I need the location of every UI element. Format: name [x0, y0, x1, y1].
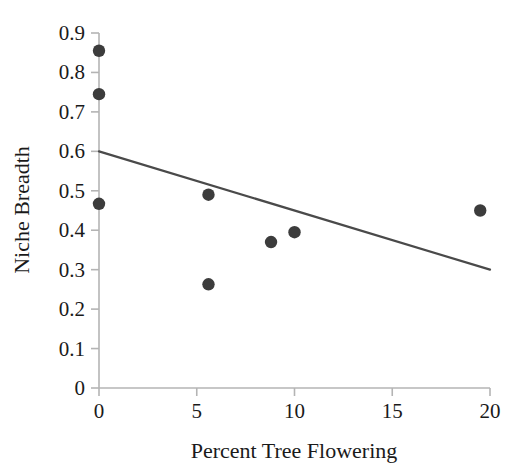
trendline-segment: [99, 151, 490, 269]
data-point: [93, 198, 105, 210]
y-tick-label: 0.7: [59, 100, 85, 124]
data-point: [474, 204, 486, 216]
y-axis-group: 00.10.20.30.40.50.60.70.80.9: [59, 21, 99, 400]
data-point: [93, 88, 105, 100]
plot-canvas: 00.10.20.30.40.50.60.70.80.9 05101520 Pe…: [0, 0, 522, 475]
y-axis-tick-labels: 00.10.20.30.40.50.60.70.80.9: [59, 21, 86, 400]
y-tick-label: 0.1: [59, 337, 85, 361]
x-axis-group: 05101520: [94, 388, 501, 423]
y-tick-label: 0.9: [59, 21, 85, 45]
data-point: [265, 236, 277, 248]
y-tick-label: 0.6: [59, 139, 85, 163]
y-tick-label: 0: [75, 376, 86, 400]
y-axis-ticks: [91, 33, 99, 388]
x-tick-label: 10: [284, 399, 305, 423]
x-axis-title: Percent Tree Flowering: [191, 438, 398, 463]
x-tick-label: 20: [480, 399, 501, 423]
y-tick-label: 0.8: [59, 60, 85, 84]
x-axis-ticks: [99, 388, 490, 396]
data-point: [202, 189, 214, 201]
y-tick-label: 0.4: [59, 218, 86, 242]
y-tick-label: 0.2: [59, 297, 85, 321]
y-axis-title: Niche Breadth: [9, 146, 34, 274]
data-point: [288, 226, 300, 238]
x-tick-label: 5: [192, 399, 203, 423]
scatter-plot-figure: 00.10.20.30.40.50.60.70.80.9 05101520 Pe…: [0, 0, 522, 475]
x-axis-tick-labels: 05101520: [94, 399, 501, 423]
data-point: [202, 278, 214, 290]
y-tick-label: 0.3: [59, 258, 85, 282]
data-point: [93, 45, 105, 57]
y-tick-label: 0.5: [59, 179, 85, 203]
x-tick-label: 15: [382, 399, 403, 423]
x-tick-label: 0: [94, 399, 105, 423]
trendline: [99, 151, 490, 269]
